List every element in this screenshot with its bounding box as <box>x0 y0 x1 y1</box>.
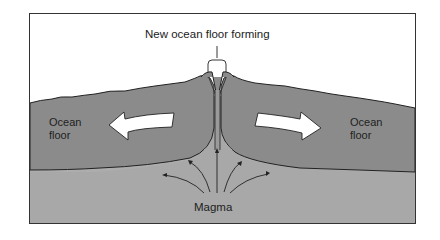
magma-label: Magma <box>194 201 232 214</box>
leader-bracket <box>208 46 226 72</box>
ocean-floor-left-line1: Ocean <box>49 116 81 129</box>
right-plate <box>221 75 415 172</box>
ocean-floor-label-left: Ocean floor <box>49 116 81 142</box>
ocean-floor-right-line1: Ocean <box>350 116 382 129</box>
fissure <box>215 90 220 152</box>
new-ocean-floor-label: New ocean floor forming <box>145 28 270 41</box>
ocean-floor-left-line2: floor <box>49 129 81 142</box>
ocean-floor-label-right: Ocean floor <box>350 116 382 142</box>
ocean-floor-right-line2: floor <box>350 129 382 142</box>
